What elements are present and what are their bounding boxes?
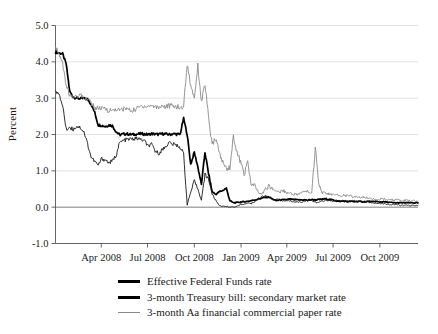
series-line-1 [56,51,419,203]
legend-item-label: 3-month Treasury bill: secondary market … [147,290,346,306]
x-tick-label: Apr 2008 [81,252,121,263]
x-tick-label: Oct 2008 [175,252,214,263]
legend-item-3[interactable]: 3-month Aa financial commercial paper ra… [118,305,346,321]
y-tick-label: 1.0 [35,165,48,176]
x-tick-label: Apr 2009 [267,252,307,263]
legend-item-1[interactable]: Effective Federal Funds rate [118,274,346,290]
legend-line-icon [118,296,140,299]
y-axis-label: Percent [6,94,18,154]
x-tick-label: Jan 2009 [222,252,260,263]
x-tick-label: Jul 2009 [315,252,351,263]
y-tick-label: 5.0 [35,20,48,31]
legend-item-2[interactable]: 3-month Treasury bill: secondary market … [118,290,346,306]
figure-interest-rates: 5.04.03.02.01.00.0-1.0Apr 2008Jul 2008Oc… [0,0,438,334]
legend-line-icon [118,312,140,313]
x-tick-label: Jul 2008 [130,252,166,263]
legend-item-label: 3-month Aa financial commercial paper ra… [147,305,342,321]
x-tick-label: Oct 2009 [360,252,399,263]
legend-line-icon [118,280,140,283]
y-tick-label: -1.0 [32,238,49,249]
legend-item-label: Effective Federal Funds rate [147,274,272,290]
y-tick-label: 2.0 [35,129,48,140]
y-tick-label: 4.0 [35,56,48,67]
y-tick-label: 0.0 [35,202,48,213]
chart-legend: Effective Federal Funds rate3-month Trea… [118,274,346,321]
y-tick-label: 3.0 [35,93,48,104]
